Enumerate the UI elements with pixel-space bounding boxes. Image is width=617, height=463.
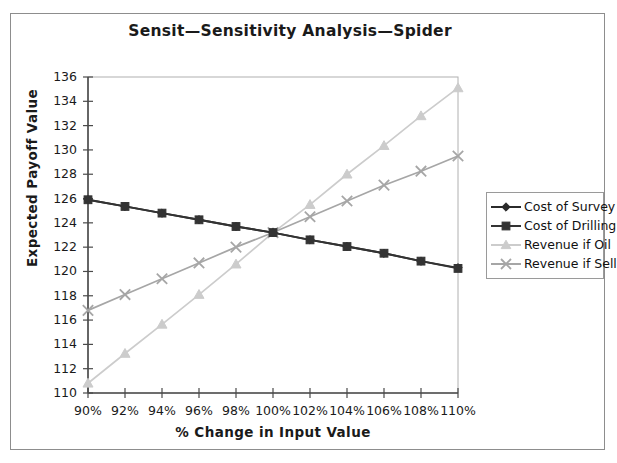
marker-square: [269, 229, 277, 237]
marker-square: [158, 209, 166, 217]
y-tick-label: 134: [31, 93, 77, 108]
y-tick-label: 130: [31, 142, 77, 157]
marker-square: [306, 236, 314, 244]
legend-item[interactable]: Cost of Drilling: [487, 216, 603, 235]
marker-cross: [379, 180, 389, 190]
legend-label: Revenue if Oil: [522, 237, 611, 252]
y-tick-label: 132: [31, 118, 77, 133]
legend-marker-cross-icon: [490, 255, 522, 273]
legend-marker-square-icon: [490, 217, 522, 235]
marker-square: [417, 257, 425, 265]
marker-square: [84, 196, 92, 204]
y-tick-label: 112: [31, 361, 77, 376]
marker-square: [380, 249, 388, 257]
marker-cross: [120, 289, 130, 299]
y-tick-label: 122: [31, 239, 77, 254]
legend-marker-diamond-icon: [490, 198, 522, 216]
marker-square: [232, 223, 240, 231]
legend-item[interactable]: Revenue if Oil: [487, 235, 603, 254]
legend-label: Revenue if Sell: [522, 256, 617, 271]
y-tick-label: 114: [31, 336, 77, 351]
y-tick-label: 126: [31, 191, 77, 206]
marker-cross: [194, 258, 204, 268]
legend-label: Cost of Drilling: [522, 218, 616, 233]
marker-square: [121, 203, 129, 211]
marker-cross: [305, 212, 315, 222]
marker-cross: [231, 242, 241, 252]
marker-square: [502, 222, 510, 230]
legend-label: Cost of Survey: [522, 199, 615, 214]
legend-item[interactable]: Revenue if Sell: [487, 254, 603, 273]
marker-triangle: [453, 83, 463, 92]
chart-legend: Cost of SurveyCost of DrillingRevenue if…: [486, 192, 604, 279]
marker-cross: [157, 274, 167, 284]
series-cost-of-drilling: [84, 196, 462, 272]
marker-diamond: [502, 202, 510, 210]
legend-item[interactable]: Cost of Survey: [487, 197, 603, 216]
marker-square: [195, 216, 203, 224]
y-tick-label: 136: [31, 69, 77, 84]
y-tick-label: 128: [31, 166, 77, 181]
marker-cross: [416, 166, 426, 176]
chart-figure: Sensit—Sensitivity Analysis—Spider Expec…: [0, 0, 617, 463]
y-tick-label: 110: [31, 385, 77, 400]
y-tick-label: 120: [31, 263, 77, 278]
legend-marker-triangle-icon: [490, 236, 522, 254]
y-tick-label: 124: [31, 215, 77, 230]
y-tick-label: 118: [31, 288, 77, 303]
marker-square: [343, 243, 351, 251]
marker-cross: [342, 196, 352, 206]
marker-square: [454, 265, 462, 273]
y-tick-label: 116: [31, 312, 77, 327]
x-tick-label: 110%: [433, 403, 483, 418]
